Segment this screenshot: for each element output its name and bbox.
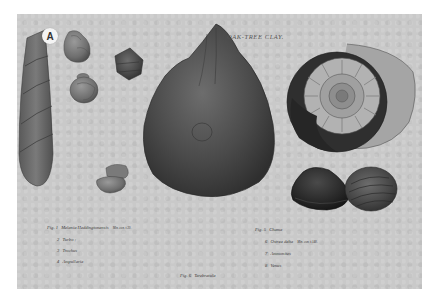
caption-fig-3: 3 Trochus (57, 248, 77, 253)
ostrea-shell (143, 24, 274, 197)
caption-fig-7: 7 Ammonites (265, 251, 291, 256)
caption-fig-6: 6 Ostrea delta Min. con. t.148. (265, 239, 317, 244)
ammonite-shell (287, 44, 415, 152)
turbo-shell (64, 31, 90, 63)
caption-fig-5: Fig. 5 Chama (255, 227, 282, 232)
caption-fig-1: Fig. 1 Melania Heddingtonensis Min. con.… (47, 225, 131, 230)
ribbed-clam-shell (345, 167, 397, 211)
ampullaria-shell (70, 74, 98, 104)
plate-illustration (17, 14, 422, 289)
venus-shell (291, 167, 349, 210)
figure-label-badge: A (42, 28, 58, 44)
chama-shell (97, 164, 129, 193)
caption-fig-8: 8 Venus (265, 263, 281, 268)
plate-title: OAK-TREE CLAY. (227, 33, 284, 40)
trochus-shell (115, 48, 143, 80)
caption-fig-2: 2 Turbo ; (57, 237, 76, 242)
melania-shell (19, 30, 53, 186)
caption-fig-center: Fig. 6 Terebratula (180, 273, 216, 278)
fossil-plate: A OAK-TREE CLAY. Fig. 1 Melania Heddingt… (17, 14, 422, 289)
caption-fig-4: 4 Ampullaria (57, 259, 83, 264)
